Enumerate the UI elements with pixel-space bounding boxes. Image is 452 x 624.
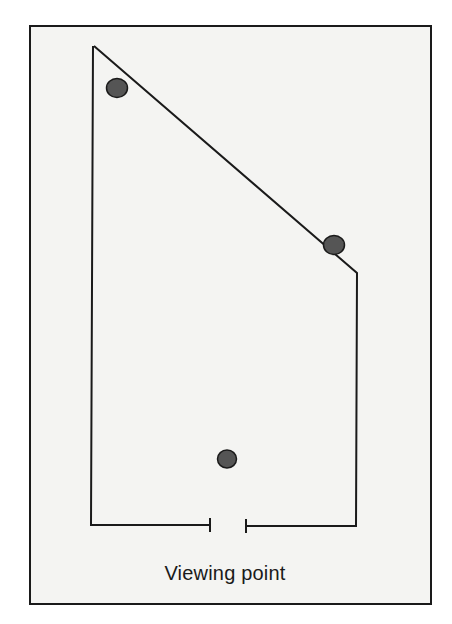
diagram-canvas: Viewing point: [0, 0, 452, 624]
viewing-point-dot: [218, 450, 237, 468]
dot-right: [324, 236, 345, 255]
dot-upper-left: [107, 79, 128, 98]
room-diagram: [0, 0, 452, 624]
viewing-point-label-text: Viewing point: [164, 562, 285, 585]
viewing-point-label: Viewing point: [0, 562, 452, 585]
